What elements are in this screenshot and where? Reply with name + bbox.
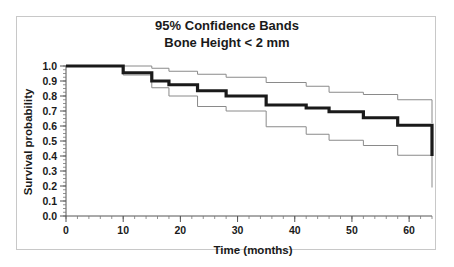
y-tick-label: 0.1 xyxy=(42,195,57,207)
y-tick-label: 1.0 xyxy=(42,60,57,72)
y-tick-label: 0.2 xyxy=(42,180,57,192)
y-tick-label: 0.5 xyxy=(42,135,57,147)
x-tick-label: 40 xyxy=(289,224,301,236)
chart-title-line2: Bone Height < 2 mm xyxy=(164,35,289,50)
x-tick-label: 20 xyxy=(175,224,187,236)
chart-axes: 01020304050600.00.10.20.30.40.50.60.70.8… xyxy=(42,60,432,236)
survival-chart: 95% Confidence Bands Bone Height < 2 mm … xyxy=(0,0,454,267)
y-tick-label: 0.6 xyxy=(42,120,57,132)
x-tick-label: 50 xyxy=(346,224,358,236)
y-tick-label: 0.7 xyxy=(42,105,57,117)
chart-series-layer xyxy=(66,66,432,188)
y-tick-label: 0.8 xyxy=(42,90,57,102)
y-tick-label: 0.0 xyxy=(42,210,57,222)
x-tick-label: 30 xyxy=(232,224,244,236)
x-axis-title: Time (months) xyxy=(213,244,292,256)
y-tick-label: 0.9 xyxy=(42,75,57,87)
y-axis-title: Survival probability xyxy=(22,88,34,195)
x-tick-label: 60 xyxy=(403,224,415,236)
confidence-band-line xyxy=(66,66,432,188)
chart-title-line1: 95% Confidence Bands xyxy=(155,18,299,33)
x-tick-label: 0 xyxy=(63,224,69,236)
x-tick-label: 10 xyxy=(117,224,129,236)
y-tick-label: 0.3 xyxy=(42,165,57,177)
figure-page: 95% Confidence Bands Bone Height < 2 mm … xyxy=(0,0,454,267)
y-tick-label: 0.4 xyxy=(42,150,57,162)
